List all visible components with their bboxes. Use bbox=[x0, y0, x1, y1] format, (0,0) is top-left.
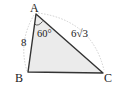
triangle-diagram: A B C 8 6√3 60° bbox=[0, 0, 117, 87]
vertex-b-label: B bbox=[15, 71, 23, 85]
angle-a-label: 60° bbox=[37, 28, 52, 39]
vertex-a-label: A bbox=[30, 1, 39, 15]
vertex-c-label: C bbox=[104, 71, 112, 85]
triangle-abc bbox=[28, 14, 103, 73]
side-ab-label: 8 bbox=[21, 36, 27, 48]
side-ac-label: 6√3 bbox=[71, 27, 89, 39]
